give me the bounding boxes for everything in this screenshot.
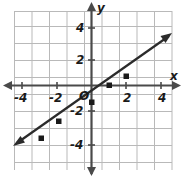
y-tick-label-pos4: 4 — [76, 22, 84, 34]
y-tick-label-neg2: -2 — [70, 105, 83, 117]
x-axis-label: x — [170, 70, 178, 82]
data-point — [124, 74, 130, 80]
coordinate-plane-svg — [0, 0, 183, 176]
y-tick-label-neg4: -4 — [70, 139, 83, 151]
x-tick-label-pos4: 4 — [158, 92, 166, 104]
coordinate-plane-figure: -4 -2 2 4 4 2 -2 -4 O x y — [0, 0, 183, 176]
y-tick-label-pos2: 2 — [76, 54, 84, 66]
x-tick-label-neg4: -4 — [14, 92, 27, 104]
data-points — [39, 74, 130, 142]
data-point — [39, 136, 45, 142]
data-point — [89, 100, 95, 106]
x-tick-label-neg2: -2 — [49, 92, 62, 104]
x-tick-label-pos2: 2 — [123, 92, 131, 104]
data-point — [56, 119, 62, 125]
origin-label: O — [79, 90, 89, 102]
data-point — [107, 83, 113, 89]
y-axis-label: y — [97, 2, 105, 14]
